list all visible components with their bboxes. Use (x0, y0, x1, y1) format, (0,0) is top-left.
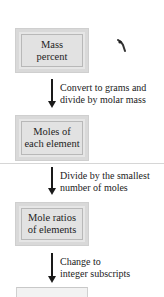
node-next-step-partial (16, 287, 88, 297)
page-divider (0, 163, 164, 164)
edge-line: number of moles (60, 182, 150, 194)
edge-label-convert: Convert to grams and divide by molar mas… (60, 82, 146, 105)
node-mass-percent-label: Mass percent (21, 34, 83, 67)
node-line: Mass (37, 39, 68, 51)
edge-line: divide by molar mass (60, 94, 146, 106)
edge-label-change: Change to integer subscripts (60, 256, 130, 279)
node-line: percent (37, 51, 68, 63)
edge-line: Divide by the smallest (60, 170, 150, 182)
node-line: Mole ratios (28, 212, 77, 224)
edge-line: Convert to grams and (60, 82, 146, 94)
edge-label-divide: Divide by the smallest number of moles (60, 170, 150, 193)
edge-line: integer subscripts (60, 268, 130, 280)
node-moles-each-element-label: Moles of each element (21, 121, 83, 155)
node-line: Moles of (24, 126, 79, 138)
edge-line: Change to (60, 256, 130, 268)
node-mole-ratios: Mole ratios of elements (16, 203, 88, 245)
node-mass-percent: Mass percent (16, 29, 88, 72)
arrow-down-icon (51, 253, 53, 278)
node-mole-ratios-label: Mole ratios of elements (21, 208, 83, 240)
arrow-down-icon (51, 79, 53, 103)
arrow-down-icon (51, 167, 53, 190)
node-moles-each-element: Moles of each element (16, 116, 88, 160)
node-line: each element (24, 138, 79, 150)
mouse-cursor-icon (117, 39, 127, 53)
node-line: of elements (28, 224, 77, 236)
